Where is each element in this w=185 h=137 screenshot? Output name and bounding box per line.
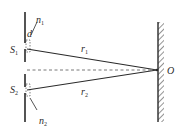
label-r2: r2 xyxy=(81,86,88,98)
ray-r2 xyxy=(27,70,157,90)
label-o: O xyxy=(167,65,174,76)
ray-r1 xyxy=(27,49,157,70)
point-o-marker xyxy=(156,69,159,72)
film-n1 xyxy=(26,40,30,52)
label-n1: n1 xyxy=(36,14,44,26)
label-s1: S1 xyxy=(10,44,18,56)
label-r1: r1 xyxy=(81,43,88,55)
double-slit-diagram: S1 S2 d n1 n2 r1 r2 O xyxy=(0,0,185,137)
observation-screen xyxy=(158,22,164,122)
label-s2: S2 xyxy=(10,84,18,96)
leader-n2 xyxy=(30,98,37,110)
label-n2: n2 xyxy=(39,115,47,127)
